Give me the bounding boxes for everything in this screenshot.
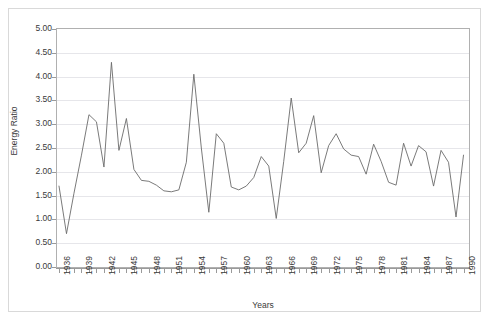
y-axis-tick-label: 2.50 xyxy=(18,143,52,152)
x-axis-tick-label: 1990 xyxy=(468,256,477,275)
x-axis-tick xyxy=(239,269,240,273)
x-axis-tick xyxy=(299,269,300,273)
x-axis-tick-label: 1957 xyxy=(220,256,229,275)
x-axis-tick xyxy=(419,269,420,273)
x-axis-tick-label: 1948 xyxy=(153,256,162,275)
x-axis-tick-label: 1981 xyxy=(400,256,409,275)
x-axis-tick xyxy=(96,269,97,273)
y-axis-tick-label: 1.50 xyxy=(18,191,52,200)
x-axis-tick xyxy=(351,269,352,273)
y-axis-tick xyxy=(52,100,56,101)
x-axis-tick-label: 1960 xyxy=(243,256,252,275)
x-axis-tick xyxy=(344,269,345,273)
y-axis-tick-label: 0.00 xyxy=(18,262,52,271)
x-axis-tick xyxy=(366,269,367,273)
y-axis-tick xyxy=(52,172,56,173)
chart-container: 5.004.504.003.503.002.502.001.501.000.50… xyxy=(0,0,491,322)
x-axis-tick-label: 1969 xyxy=(310,256,319,275)
y-axis-tick xyxy=(52,148,56,149)
x-axis-tick xyxy=(306,269,307,273)
x-axis-tick-label: 1978 xyxy=(378,256,387,275)
x-axis-tick xyxy=(456,269,457,273)
x-axis-tick xyxy=(59,269,60,273)
x-axis-tick xyxy=(389,269,390,273)
plot-area xyxy=(56,28,470,268)
x-axis-tick xyxy=(396,269,397,273)
x-axis-tick xyxy=(276,269,277,273)
x-axis-tick xyxy=(194,269,195,273)
y-axis-title: Energy Ratio xyxy=(9,91,19,171)
x-axis-tick xyxy=(411,269,412,273)
x-axis-tick xyxy=(464,269,465,273)
y-axis-tick-label: 4.00 xyxy=(18,72,52,81)
y-axis-tick-label: 1.00 xyxy=(18,214,52,223)
x-axis-tick xyxy=(329,269,330,273)
y-axis-tick-label: 4.50 xyxy=(18,48,52,57)
x-axis-tick xyxy=(209,269,210,273)
y-axis-tick xyxy=(52,219,56,220)
x-axis-tick-label: 1987 xyxy=(445,256,454,275)
x-axis-tick xyxy=(119,269,120,273)
x-axis-tick xyxy=(186,269,187,273)
x-axis-tick-label: 1951 xyxy=(175,256,184,275)
x-axis-tick xyxy=(104,269,105,273)
x-axis-tick-label: 1954 xyxy=(198,256,207,275)
x-axis-tick xyxy=(374,269,375,273)
x-axis-tick xyxy=(261,269,262,273)
x-axis-tick-label: 1972 xyxy=(333,256,342,275)
x-axis-tick-label: 1939 xyxy=(85,256,94,275)
y-axis-tick xyxy=(52,29,56,30)
x-axis-tick-label: 1936 xyxy=(63,256,72,275)
x-axis-tick xyxy=(149,269,150,273)
x-axis-tick xyxy=(231,269,232,273)
x-axis-tick xyxy=(81,269,82,273)
x-axis-tick xyxy=(164,269,165,273)
y-axis-tick-label: 2.00 xyxy=(18,167,52,176)
x-axis-tick xyxy=(284,269,285,273)
y-axis-tick-label: 0.50 xyxy=(18,238,52,247)
y-axis-tick xyxy=(52,196,56,197)
y-axis-tick-label: 3.00 xyxy=(18,119,52,128)
x-axis-tick xyxy=(171,269,172,273)
y-axis-tick xyxy=(52,267,56,268)
y-axis-tick xyxy=(52,53,56,54)
x-axis-tick xyxy=(434,269,435,273)
x-axis-tick xyxy=(441,269,442,273)
x-axis-tick xyxy=(254,269,255,273)
y-axis-tick xyxy=(52,124,56,125)
x-axis-tick xyxy=(74,269,75,273)
x-axis-tick-label: 1984 xyxy=(423,256,432,275)
x-axis-tick-label: 1942 xyxy=(108,256,117,275)
series-line-energy-ratio xyxy=(57,29,469,267)
y-axis-tick-label: 3.50 xyxy=(18,95,52,104)
x-axis-title: Years xyxy=(56,300,470,310)
y-axis-tick xyxy=(52,243,56,244)
x-axis-tick-label: 1945 xyxy=(130,256,139,275)
y-axis-tick-label: 5.00 xyxy=(18,24,52,33)
x-axis-tick xyxy=(321,269,322,273)
x-axis-tick xyxy=(216,269,217,273)
y-axis-tick xyxy=(52,77,56,78)
x-axis-tick xyxy=(141,269,142,273)
x-axis-tick-label: 1975 xyxy=(355,256,364,275)
x-axis-tick-label: 1966 xyxy=(288,256,297,275)
x-axis-tick-label: 1963 xyxy=(265,256,274,275)
x-axis-tick xyxy=(126,269,127,273)
